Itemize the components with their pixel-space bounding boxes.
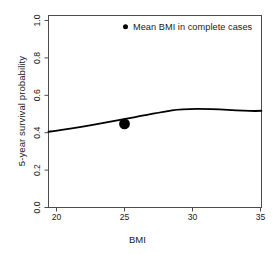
legend-label-mean-bmi: Mean BMI in complete cases: [133, 22, 252, 32]
y-axis-ticks: [45, 21, 49, 208]
y-tick-label-0-2: 0.2: [32, 157, 42, 183]
legend-marker-icon: [123, 24, 128, 29]
y-axis-title: 5-year survival probability: [16, 16, 30, 206]
plot-frame: [49, 16, 262, 208]
y-tick-label-0-8: 0.8: [32, 45, 42, 71]
y-tick-label-0-6: 0.6: [32, 82, 42, 108]
y-tick-label-1-0: 1.0: [32, 8, 42, 34]
chart-figure: Mean BMI in complete cases 20 25 30 35 0…: [0, 0, 275, 254]
survival-curve: [49, 109, 262, 132]
x-axis-ticks: [57, 208, 261, 212]
x-tick-label-20: 20: [42, 212, 72, 222]
mean-bmi-data-point: [119, 119, 130, 130]
x-tick-label-30: 30: [178, 212, 208, 222]
y-tick-label-0-4: 0.4: [32, 120, 42, 146]
y-tick-label-0-0: 0.0: [32, 195, 42, 221]
x-axis-title: BMI: [0, 234, 275, 245]
x-tick-label-35: 35: [246, 212, 276, 222]
x-tick-label-25: 25: [110, 212, 140, 222]
